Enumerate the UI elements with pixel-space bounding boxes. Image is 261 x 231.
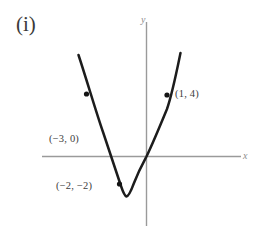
point-dot-vertex bbox=[117, 181, 122, 186]
y-axis-label: y bbox=[141, 14, 145, 25]
point-dot-1-4 bbox=[164, 92, 169, 97]
parabola-plot bbox=[0, 0, 261, 231]
figure-container: (i) x y (1, 4) (−3, 0) (−2, −2) bbox=[0, 0, 261, 231]
point-label-minus3-0: (−3, 0) bbox=[49, 133, 79, 144]
point-label-minus2-minus2: (−2, −2) bbox=[56, 180, 92, 191]
point-label-1-4: (1, 4) bbox=[175, 88, 199, 99]
parabola-curve bbox=[79, 53, 181, 197]
x-axis-label: x bbox=[243, 150, 247, 161]
point-dot-upper-left bbox=[84, 91, 89, 96]
panel-label: (i) bbox=[16, 12, 36, 37]
